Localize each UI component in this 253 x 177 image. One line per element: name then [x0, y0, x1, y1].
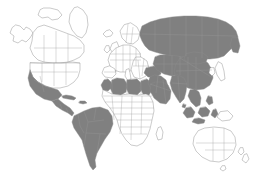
region-sri-lanka: [182, 104, 186, 108]
region-algeria: [110, 78, 127, 95]
region-libya: [126, 79, 141, 95]
world-map-svg: [0, 0, 253, 177]
world-map-figure: [0, 0, 253, 177]
